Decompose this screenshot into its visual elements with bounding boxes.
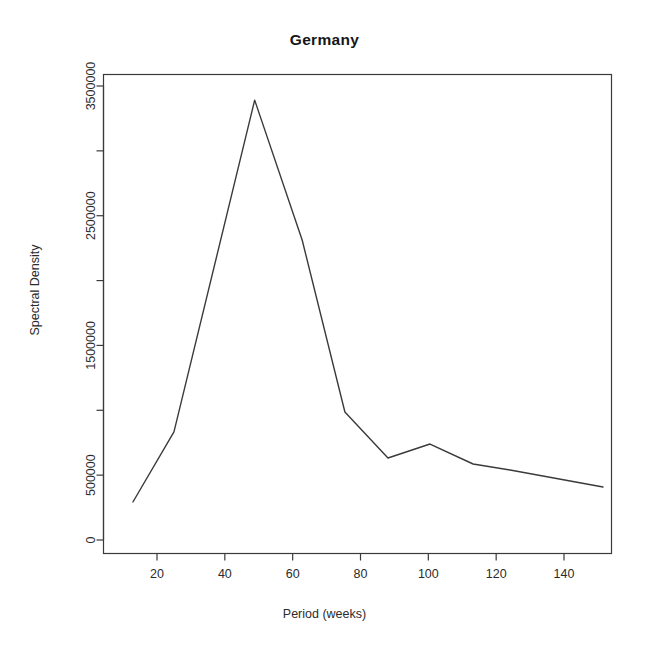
y-axis: 0500000150000025000003500000 <box>84 62 104 544</box>
y-tick-label: 3500000 <box>84 62 98 111</box>
y-tick-label: 0 <box>84 536 98 543</box>
x-tick-label: 40 <box>218 567 232 581</box>
plot-frame <box>104 75 612 554</box>
x-tick-label: 140 <box>554 567 575 581</box>
x-axis: 20406080100120140 <box>150 554 574 581</box>
y-tick-label: 2500000 <box>84 191 98 240</box>
data-line-spectral-density <box>133 100 603 502</box>
x-tick-label: 120 <box>486 567 507 581</box>
y-tick-label: 1500000 <box>84 321 98 370</box>
x-axis-label: Period (weeks) <box>0 607 649 621</box>
x-tick-label: 100 <box>418 567 439 581</box>
x-tick-label: 20 <box>150 567 164 581</box>
chart-figure: Germany 0500000150000025000003500000 204… <box>0 0 649 661</box>
y-tick-label: 500000 <box>84 454 98 496</box>
data-series-layer <box>133 100 603 502</box>
x-tick-label: 60 <box>286 567 300 581</box>
y-axis-label: Spectral Density <box>28 210 42 370</box>
x-tick-label: 80 <box>354 567 368 581</box>
spectral-density-line-chart: 0500000150000025000003500000 20406080100… <box>0 0 649 661</box>
